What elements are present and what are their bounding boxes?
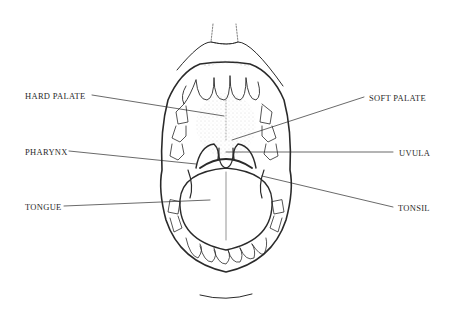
mouth-anatomy-diagram: HARD PALATE PHARYNX TONGUE SOFT PALATE U… xyxy=(0,0,454,323)
leader-tongue xyxy=(64,200,210,206)
mouth-illustration xyxy=(0,0,454,323)
label-tonsil: TONSIL xyxy=(398,203,430,213)
label-pharynx: PHARYNX xyxy=(25,147,68,157)
leader-tonsil xyxy=(262,176,393,207)
label-tongue: TONGUE xyxy=(25,202,62,212)
label-hard-palate: HARD PALATE xyxy=(25,91,85,101)
leader-pharynx xyxy=(69,151,196,164)
label-soft-palate: SOFT PALATE xyxy=(369,93,426,103)
label-uvula: UVULA xyxy=(399,148,430,158)
